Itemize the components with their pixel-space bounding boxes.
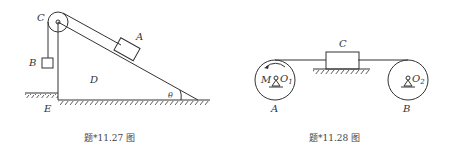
label-b: B	[28, 57, 36, 68]
label-o2: O2	[412, 73, 425, 86]
label-a-fig28: A	[270, 103, 278, 114]
label-d: D	[89, 74, 98, 85]
label-a: A	[135, 31, 143, 42]
diagram-canvas: C A B D E θ 题*11.27 图	[0, 0, 449, 154]
label-m: M	[260, 74, 272, 85]
label-b-fig28: B	[402, 103, 410, 114]
label-theta: θ	[168, 91, 173, 100]
label-e: E	[43, 103, 52, 114]
caption-fig27: 题*11.27 图	[84, 133, 135, 143]
caption-fig28: 题*11.28 图	[309, 133, 360, 143]
figure-11-28: C M O1 O2 A B 题*11.28 图	[255, 38, 428, 143]
ground-left-fig27	[25, 93, 210, 105]
rope-to-a	[63, 13, 121, 45]
wedge-d	[58, 22, 198, 100]
block-b	[42, 58, 53, 68]
label-c: C	[37, 12, 45, 23]
label-c-fig28: C	[339, 38, 347, 49]
label-o1: O1	[280, 73, 293, 86]
figure-11-27: C A B D E θ 题*11.27 图	[25, 12, 210, 143]
block-c	[326, 52, 359, 69]
